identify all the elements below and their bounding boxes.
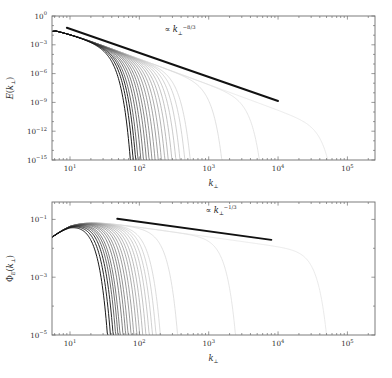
figure-background (0, 0, 392, 378)
spectra-figure: 10110210310410510010−310−610−910−1210−15… (0, 0, 392, 378)
y-axis-title: E(k⊥) (5, 77, 16, 101)
y-axis-title: ΦE(k⊥) (5, 255, 16, 282)
